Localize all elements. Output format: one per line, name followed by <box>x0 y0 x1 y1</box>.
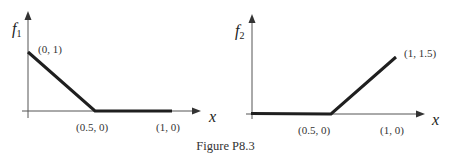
f2-x-axis-arrow-icon <box>416 111 425 118</box>
figure-caption: Figure P8.3 <box>0 139 451 154</box>
f1-y-label: f1 <box>12 20 21 39</box>
f1-x-axis-arrow-icon <box>192 108 201 115</box>
f1-x-label: x <box>208 108 216 125</box>
f1-curve <box>28 52 172 111</box>
f2-y-label: f2 <box>235 22 244 41</box>
plot-f1: f1 x (0, 1) (0.5, 0) (1, 0) <box>12 11 216 134</box>
f1-point-label-05-0: (0.5, 0) <box>76 121 108 134</box>
f2-x-label: x <box>431 111 439 128</box>
plot-f2: f2 x (1, 1.5) (0.5, 0) (1, 0) <box>235 14 439 137</box>
f1-point-label-1-0: (1, 0) <box>156 121 180 134</box>
f2-curve <box>251 57 396 114</box>
f2-point-label-1-0: (1, 0) <box>380 124 404 137</box>
figure-canvas: f1 x (0, 1) (0.5, 0) (1, 0) f2 x (1, 1.5… <box>0 0 451 162</box>
f1-point-label-0-1: (0, 1) <box>38 43 62 56</box>
f1-y-axis-arrow-icon <box>25 11 32 20</box>
f2-point-label-1-15: (1, 1.5) <box>404 47 436 60</box>
f2-y-axis-arrow-icon <box>249 14 256 23</box>
f2-point-label-05-0: (0.5, 0) <box>298 124 330 137</box>
